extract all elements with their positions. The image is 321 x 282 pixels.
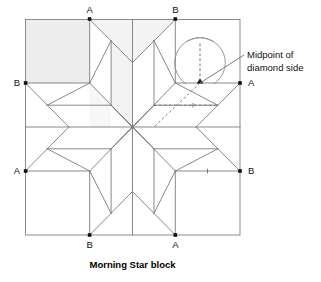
dot-top-B	[174, 17, 178, 21]
dot-left-B	[24, 81, 28, 85]
shade-corner-square-top-left	[26, 20, 90, 84]
compass-arc-right	[187, 38, 225, 84]
compass-arc-left	[175, 38, 213, 84]
north-right-outer	[154, 41, 175, 83]
dot-bottom-A	[174, 233, 178, 237]
annotation-line-1: Midpoint of	[247, 49, 294, 60]
south-left-outer	[90, 171, 111, 213]
leader-line	[200, 55, 244, 83]
west-bottom-inseam	[111, 127, 132, 149]
south-right-outer	[154, 171, 175, 213]
figure-caption: Morning Star block	[89, 259, 176, 270]
label-top-left-A: A	[87, 4, 94, 15]
east-top-outer	[175, 83, 218, 105]
shaded-regions	[26, 19, 176, 127]
north-left-outer	[90, 41, 111, 83]
dot-top-A	[88, 17, 92, 21]
label-right-lower-B: B	[248, 165, 254, 176]
annotation-line-2: diamond side	[247, 62, 304, 73]
label-left-upper-B: B	[14, 77, 20, 88]
annotation-leader	[200, 55, 244, 83]
west-top-outer	[47, 83, 89, 105]
midpoint-construction	[154, 38, 225, 174]
dot-left-A	[24, 169, 28, 173]
morning-star-diagram: A B B A A B B A Midpoint of diamond side…	[0, 0, 321, 282]
figure-container: A B B A A B B A Midpoint of diamond side…	[0, 0, 321, 282]
east-bottom-outer	[175, 149, 218, 171]
label-top-right-B: B	[172, 4, 178, 15]
dot-bottom-B	[88, 233, 92, 237]
label-right-upper-A: A	[248, 77, 255, 88]
dot-right-A	[238, 81, 242, 85]
east-bottom-inseam	[133, 127, 155, 149]
west-bottom-outer	[47, 149, 89, 171]
east-top-inseam	[133, 105, 155, 127]
label-left-lower-A: A	[14, 165, 21, 176]
label-bottom-left-B: B	[87, 239, 93, 250]
dot-right-B	[238, 169, 242, 173]
label-bottom-right-A: A	[172, 239, 179, 250]
